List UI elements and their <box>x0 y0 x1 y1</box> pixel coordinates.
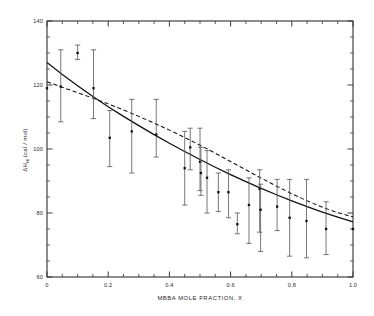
data-point <box>129 99 134 173</box>
data-marker <box>109 137 111 139</box>
data-point <box>198 147 203 195</box>
y-tick-label: 140 <box>33 18 43 24</box>
data-point <box>182 131 187 205</box>
x-tick-label: 0.2 <box>104 282 112 288</box>
x-tick-label: 0.4 <box>165 282 173 288</box>
data-point <box>204 151 209 213</box>
y-tick-label: 80 <box>36 210 43 216</box>
y-axis-title-units: (cal / mol) <box>22 128 28 157</box>
data-marker <box>60 85 62 87</box>
data-marker <box>155 133 157 135</box>
data-marker <box>200 172 202 174</box>
data-marker <box>289 217 291 219</box>
data-marker <box>227 191 229 193</box>
x-tick-label: 0 <box>45 282 48 288</box>
data-point <box>246 178 251 244</box>
data-point <box>188 128 193 170</box>
data-point <box>226 170 231 218</box>
data-point <box>352 228 354 230</box>
data-point <box>304 179 309 257</box>
data-marker <box>206 177 208 179</box>
data-point <box>235 213 240 234</box>
data-marker <box>76 52 78 54</box>
y-axis-title: ΔHNI(cal / mol) <box>22 128 30 172</box>
data-marker <box>352 228 354 230</box>
x-tick-label: 1.0 <box>349 282 357 288</box>
data-marker <box>189 146 191 148</box>
y-tick-label: 100 <box>33 146 43 152</box>
data-point <box>197 128 202 190</box>
data-marker <box>236 223 238 225</box>
y-tick-labels: 6080100120140 <box>33 18 43 280</box>
data-point <box>46 87 48 89</box>
enthalpy-vs-mole-fraction-chart: 00.20.40.60.81.0 6080100120140 MBBA MOLE… <box>0 0 374 316</box>
data-point <box>154 99 159 157</box>
y-axis-title-main: ΔH <box>22 163 28 172</box>
data-point <box>258 184 263 251</box>
y-axis-title-subscript: NI <box>25 159 30 163</box>
data-marker <box>325 228 327 230</box>
figure-container: 00.20.40.60.81.0 6080100120140 MBBA MOLE… <box>0 0 374 316</box>
data-point <box>75 45 80 59</box>
data-marker <box>276 205 278 207</box>
x-tick-label: 0.6 <box>226 282 234 288</box>
data-marker <box>131 130 133 132</box>
data-marker <box>259 209 261 211</box>
data-point <box>216 173 221 211</box>
data-marker <box>248 204 250 206</box>
x-tick-labels: 00.20.40.60.81.0 <box>45 282 357 288</box>
data-points-group <box>46 45 354 258</box>
x-tick-label: 0.8 <box>288 282 296 288</box>
data-point <box>257 170 262 232</box>
data-marker <box>217 191 219 193</box>
data-marker <box>92 87 94 89</box>
data-point <box>91 50 96 119</box>
data-point <box>107 111 112 167</box>
data-point <box>287 179 292 256</box>
data-marker <box>305 220 307 222</box>
y-tick-label: 120 <box>33 82 43 88</box>
data-point <box>58 50 63 122</box>
y-tick-label: 60 <box>36 274 43 280</box>
x-axis-title: MBBA MOLE FRACTION, X <box>157 295 242 301</box>
data-marker <box>184 167 186 169</box>
svg-text:ΔHNI(cal / mol): ΔHNI(cal / mol) <box>22 128 30 172</box>
data-marker <box>46 87 48 89</box>
